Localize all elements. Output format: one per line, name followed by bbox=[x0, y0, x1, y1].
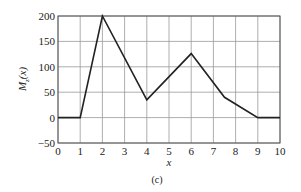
y-tick-label: 150 bbox=[39, 35, 56, 47]
y-tick-label: 100 bbox=[39, 61, 56, 73]
y-tick-label: −50 bbox=[38, 137, 56, 149]
grid-lines bbox=[58, 16, 280, 143]
x-tick-label: 8 bbox=[233, 145, 239, 157]
x-tick-label: 0 bbox=[55, 145, 61, 157]
y-tick-label: 0 bbox=[50, 112, 56, 124]
y-axis-label-arg: (x) bbox=[16, 67, 29, 80]
x-tick-label: 7 bbox=[211, 145, 217, 157]
x-axis-label: x bbox=[166, 156, 172, 168]
x-tick-label: 1 bbox=[77, 145, 83, 157]
bending-moment-chart: 012345678910 −50050100150200 x Mz(x) (c) bbox=[0, 0, 301, 192]
svg-text:Mz(x): Mz(x) bbox=[16, 67, 31, 92]
figure-caption: (c) bbox=[151, 174, 162, 186]
y-tick-label: 200 bbox=[39, 10, 56, 22]
x-tick-label: 6 bbox=[188, 145, 194, 157]
y-axis-label: Mz(x) bbox=[16, 67, 31, 92]
x-tick-label: 2 bbox=[100, 145, 106, 157]
x-tick-label: 10 bbox=[275, 145, 287, 157]
y-tick-label: 50 bbox=[44, 86, 56, 98]
x-tick-label: 4 bbox=[144, 145, 150, 157]
y-tick-labels: −50050100150200 bbox=[38, 10, 56, 149]
x-tick-label: 3 bbox=[122, 145, 128, 157]
x-tick-label: 9 bbox=[255, 145, 261, 157]
